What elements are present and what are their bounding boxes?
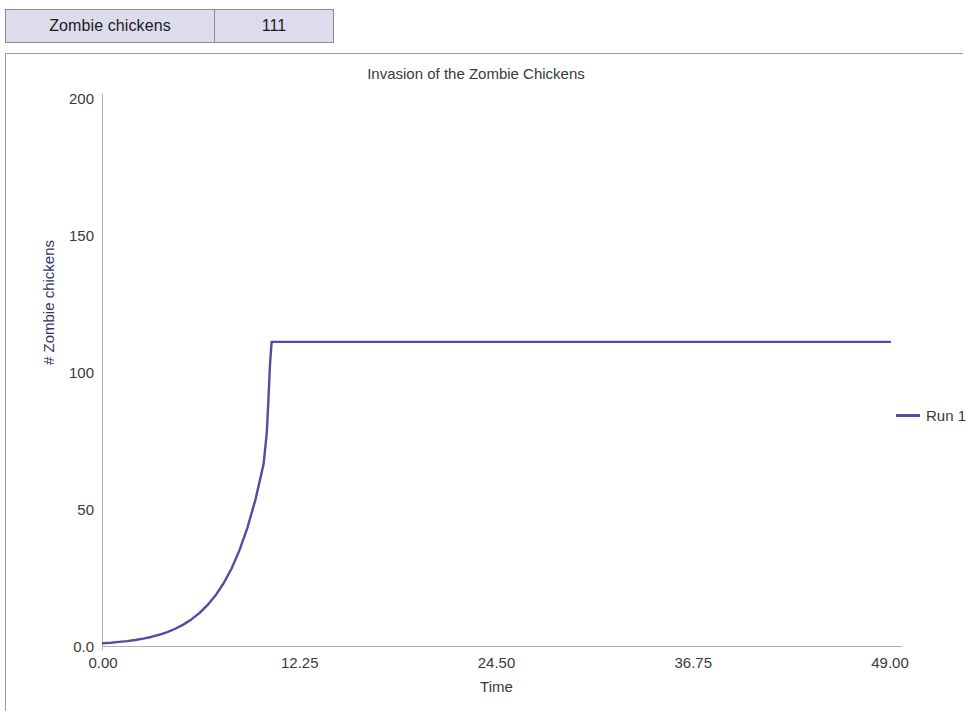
- y-axis-tick-labels: 0.050100150200: [28, 98, 94, 646]
- x-axis-title: Time: [103, 678, 890, 695]
- y-tick-label: 150: [34, 227, 94, 244]
- y-tick-label: 0.0: [34, 638, 94, 655]
- x-tick-label: 36.75: [648, 654, 738, 671]
- chart-frame: Invasion of the Zombie Chickens # Zombie…: [5, 53, 963, 711]
- x-tick-label: 24.50: [452, 654, 542, 671]
- readout-variable-name: Zombie chickens: [6, 10, 215, 42]
- series-line: [103, 342, 890, 643]
- legend-label-run-1: Run 1: [926, 407, 966, 424]
- x-tick-label: 12.25: [255, 654, 345, 671]
- y-tick-label: 200: [34, 90, 94, 107]
- chart-legend: Run 1: [896, 407, 966, 424]
- y-tick-label: 100: [34, 364, 94, 381]
- x-axis-line: [102, 646, 902, 647]
- x-tick-label: 49.00: [845, 654, 935, 671]
- y-tick-label: 50: [34, 501, 94, 518]
- chart-title: Invasion of the Zombie Chickens: [6, 65, 946, 82]
- x-tick-label: 0.00: [58, 654, 148, 671]
- series-plot: [103, 98, 890, 646]
- x-axis-tick-labels: 0.0012.2524.5036.7549.00: [103, 654, 890, 678]
- readout-table: Zombie chickens 111: [5, 9, 334, 43]
- legend-swatch-run-1: [896, 414, 920, 417]
- plot-area: [103, 98, 890, 646]
- readout-variable-value: 111: [215, 10, 333, 42]
